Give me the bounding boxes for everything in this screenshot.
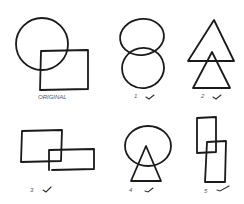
fig3-rect-top bbox=[21, 130, 62, 162]
figure-1: 1 bbox=[118, 16, 168, 99]
check-icon bbox=[145, 188, 153, 192]
label-original: ORIGINAL bbox=[38, 94, 67, 100]
figure-5: 5 bbox=[197, 117, 229, 194]
fig3-rect-bottom bbox=[49, 149, 94, 170]
fig1-oval-top bbox=[118, 16, 167, 58]
fig1-oval-bottom bbox=[118, 44, 167, 92]
check-icon bbox=[213, 95, 221, 99]
original-circle bbox=[16, 18, 68, 70]
fig2-triangle-bottom bbox=[193, 52, 230, 88]
figure-2: 2 bbox=[188, 20, 234, 99]
label-2: 2 bbox=[200, 93, 205, 99]
check-icon bbox=[146, 95, 154, 99]
figure-canvas: ORIGINAL 1 2 3 4 5 bbox=[0, 0, 244, 204]
label-1: 1 bbox=[134, 93, 137, 99]
check-icon bbox=[217, 186, 229, 191]
figure-4: 4 bbox=[125, 126, 171, 193]
label-3: 3 bbox=[30, 187, 34, 193]
check-icon bbox=[43, 187, 51, 192]
figure-3: 3 bbox=[21, 130, 94, 193]
label-5: 5 bbox=[204, 188, 208, 194]
fig4-circle bbox=[125, 126, 171, 166]
label-4: 4 bbox=[129, 187, 133, 193]
figure-original: ORIGINAL bbox=[16, 18, 88, 100]
